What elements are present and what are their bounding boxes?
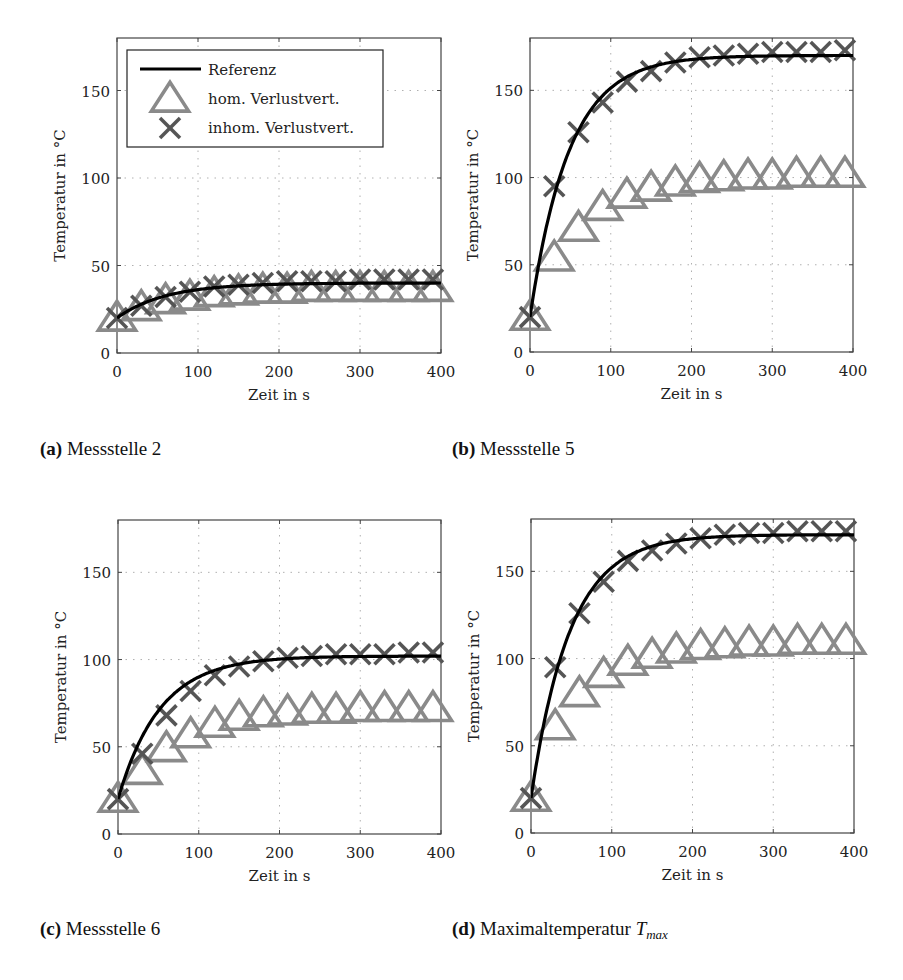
svg-text:300: 300	[759, 843, 788, 861]
caption-d-label: (d)	[452, 918, 475, 939]
x-marker	[836, 521, 856, 541]
reference-line	[531, 535, 854, 798]
svg-text:0: 0	[514, 825, 524, 843]
subplot-d: 0100200300400050100150Zeit in sTemperatu…	[0, 0, 903, 980]
plot-d: 0100200300400050100150Zeit in sTemperatu…	[0, 0, 903, 900]
svg-text:100: 100	[597, 843, 626, 861]
caption-d-math-base: T	[636, 918, 647, 939]
triangle-marker	[609, 645, 646, 674]
svg-text:100: 100	[495, 651, 524, 669]
svg-text:200: 200	[678, 843, 707, 861]
svg-text:400: 400	[840, 843, 869, 861]
svg-text:150: 150	[495, 563, 524, 581]
caption-d-math-sub: max	[646, 927, 668, 942]
x-axis-label: Zeit in s	[662, 866, 724, 884]
x-marker	[787, 521, 807, 541]
caption-d-text: Maximaltemperatur	[480, 918, 631, 939]
x-marker	[739, 523, 759, 543]
caption-d: (d) Maximaltemperatur Tmax	[452, 918, 668, 943]
svg-text:0: 0	[526, 843, 536, 861]
svg-text:50: 50	[505, 738, 524, 756]
triangle-marker	[561, 677, 598, 706]
y-axis-label: Temperatur in °C	[465, 610, 483, 742]
x-marker	[763, 523, 783, 543]
x-marker	[812, 521, 832, 541]
series-markers	[512, 521, 864, 810]
